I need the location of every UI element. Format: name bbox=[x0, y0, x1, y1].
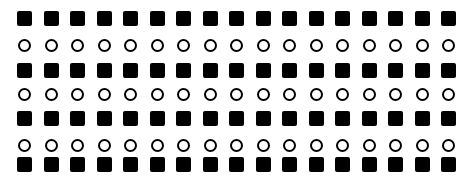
hollow-circle-icon bbox=[18, 39, 31, 52]
filled-square-icon bbox=[176, 111, 191, 126]
filled-square-icon bbox=[123, 63, 138, 78]
filled-square-icon bbox=[388, 157, 403, 172]
hollow-circle-icon bbox=[336, 139, 349, 152]
hollow-circle-icon bbox=[151, 88, 164, 101]
filled-square-icon bbox=[282, 63, 297, 78]
filled-square-icon bbox=[256, 111, 271, 126]
filled-square-icon bbox=[256, 11, 271, 26]
hollow-circle-icon bbox=[310, 88, 323, 101]
hollow-circle-icon bbox=[416, 88, 429, 101]
hollow-circle-icon bbox=[389, 139, 402, 152]
filled-square-icon bbox=[441, 11, 456, 26]
hollow-circle-icon bbox=[18, 139, 31, 152]
filled-square-icon bbox=[176, 63, 191, 78]
hollow-circle-icon bbox=[230, 139, 243, 152]
filled-square-icon bbox=[97, 11, 112, 26]
filled-square-icon bbox=[388, 111, 403, 126]
filled-square-icon bbox=[70, 157, 85, 172]
filled-square-icon bbox=[203, 63, 218, 78]
filled-square-icon bbox=[44, 11, 59, 26]
filled-square-icon bbox=[123, 157, 138, 172]
hollow-circle-icon bbox=[45, 39, 58, 52]
filled-square-icon bbox=[150, 157, 165, 172]
filled-square-icon bbox=[203, 11, 218, 26]
filled-square-icon bbox=[282, 111, 297, 126]
hollow-circle-icon bbox=[124, 139, 137, 152]
filled-square-icon bbox=[150, 11, 165, 26]
filled-square-icon bbox=[388, 11, 403, 26]
shape-pattern-grid bbox=[0, 0, 476, 181]
hollow-circle-icon bbox=[98, 139, 111, 152]
hollow-circle-icon bbox=[124, 39, 137, 52]
filled-square-icon bbox=[388, 63, 403, 78]
hollow-circle-icon bbox=[230, 88, 243, 101]
hollow-circle-icon bbox=[310, 39, 323, 52]
hollow-circle-icon bbox=[363, 39, 376, 52]
hollow-circle-icon bbox=[71, 88, 84, 101]
filled-square-icon bbox=[309, 63, 324, 78]
hollow-circle-icon bbox=[389, 88, 402, 101]
hollow-circle-icon bbox=[257, 139, 270, 152]
hollow-circle-icon bbox=[442, 39, 455, 52]
filled-square-icon bbox=[309, 11, 324, 26]
filled-square-icon bbox=[229, 11, 244, 26]
filled-square-icon bbox=[150, 111, 165, 126]
filled-square-icon bbox=[415, 157, 430, 172]
filled-square-icon bbox=[17, 11, 32, 26]
filled-square-icon bbox=[441, 157, 456, 172]
filled-square-icon bbox=[97, 157, 112, 172]
hollow-circle-icon bbox=[177, 139, 190, 152]
hollow-circle-icon bbox=[283, 39, 296, 52]
filled-square-icon bbox=[362, 157, 377, 172]
hollow-circle-icon bbox=[204, 88, 217, 101]
filled-square-icon bbox=[335, 11, 350, 26]
hollow-circle-icon bbox=[124, 88, 137, 101]
hollow-circle-icon bbox=[416, 139, 429, 152]
hollow-circle-icon bbox=[363, 88, 376, 101]
hollow-circle-icon bbox=[204, 39, 217, 52]
hollow-circle-icon bbox=[177, 39, 190, 52]
filled-square-icon bbox=[256, 63, 271, 78]
hollow-circle-icon bbox=[257, 39, 270, 52]
filled-square-icon bbox=[97, 63, 112, 78]
filled-square-icon bbox=[150, 63, 165, 78]
hollow-circle-icon bbox=[151, 39, 164, 52]
filled-square-icon bbox=[335, 63, 350, 78]
filled-square-icon bbox=[70, 11, 85, 26]
filled-square-icon bbox=[44, 157, 59, 172]
filled-square-icon bbox=[203, 157, 218, 172]
filled-square-icon bbox=[229, 63, 244, 78]
filled-square-icon bbox=[176, 157, 191, 172]
hollow-circle-icon bbox=[363, 139, 376, 152]
filled-square-icon bbox=[123, 111, 138, 126]
filled-square-icon bbox=[282, 157, 297, 172]
hollow-circle-icon bbox=[416, 39, 429, 52]
hollow-circle-icon bbox=[389, 39, 402, 52]
filled-square-icon bbox=[123, 11, 138, 26]
hollow-circle-icon bbox=[230, 39, 243, 52]
filled-square-icon bbox=[362, 63, 377, 78]
hollow-circle-icon bbox=[336, 39, 349, 52]
filled-square-icon bbox=[441, 111, 456, 126]
filled-square-icon bbox=[44, 63, 59, 78]
hollow-circle-icon bbox=[71, 139, 84, 152]
filled-square-icon bbox=[97, 111, 112, 126]
filled-square-icon bbox=[415, 63, 430, 78]
hollow-circle-icon bbox=[18, 88, 31, 101]
hollow-circle-icon bbox=[204, 139, 217, 152]
filled-square-icon bbox=[229, 111, 244, 126]
hollow-circle-icon bbox=[442, 139, 455, 152]
filled-square-icon bbox=[362, 111, 377, 126]
filled-square-icon bbox=[309, 157, 324, 172]
filled-square-icon bbox=[17, 111, 32, 126]
filled-square-icon bbox=[335, 111, 350, 126]
hollow-circle-icon bbox=[257, 88, 270, 101]
hollow-circle-icon bbox=[151, 139, 164, 152]
hollow-circle-icon bbox=[283, 88, 296, 101]
filled-square-icon bbox=[309, 111, 324, 126]
filled-square-icon bbox=[70, 111, 85, 126]
filled-square-icon bbox=[415, 111, 430, 126]
filled-square-icon bbox=[17, 157, 32, 172]
filled-square-icon bbox=[229, 157, 244, 172]
filled-square-icon bbox=[176, 11, 191, 26]
